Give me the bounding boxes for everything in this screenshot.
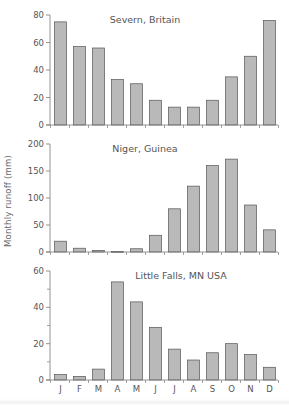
y-tick-label: 40 <box>33 65 44 75</box>
bar-J <box>55 22 67 125</box>
bar-O <box>226 344 238 380</box>
bar-M <box>131 249 143 252</box>
y-tick-label: 100 <box>28 193 44 203</box>
y-tick-label: 80 <box>33 10 44 20</box>
y-tick-label: 200 <box>28 139 44 149</box>
y-tick-label: 20 <box>33 93 44 103</box>
bar-A <box>188 186 200 252</box>
y-tick-label: 60 <box>33 38 44 48</box>
chart-panel-1: Severn, Britain020406080 <box>33 10 278 130</box>
bar-M <box>93 369 105 380</box>
month-label: A <box>115 384 121 394</box>
y-tick-label: 0 <box>39 247 44 257</box>
bar-N <box>245 355 257 380</box>
bar-J <box>55 241 67 252</box>
bar-A <box>188 107 200 125</box>
bar-S <box>207 100 219 125</box>
bar-J <box>150 327 162 380</box>
bar-J <box>55 375 67 380</box>
y-tick-label: 150 <box>28 166 44 176</box>
y-tick-label: 60 <box>33 266 44 276</box>
bar-D <box>264 367 276 380</box>
bar-D <box>264 21 276 126</box>
month-label: F <box>77 384 82 394</box>
month-label: S <box>210 384 215 394</box>
y-tick-label: 20 <box>33 339 44 349</box>
month-label: M <box>133 384 140 394</box>
y-tick-label: 40 <box>33 302 44 312</box>
runoff-bar-charts: Severn, Britain020406080Niger, Guinea050… <box>0 0 289 405</box>
chart-panel-3: Little Falls, MN USA0204060JFMAMJJASOND <box>33 266 278 394</box>
bar-A <box>188 360 200 380</box>
chart-title: Niger, Guinea <box>112 143 177 154</box>
month-label: A <box>191 384 197 394</box>
chart-title: Severn, Britain <box>110 14 180 25</box>
bar-M <box>93 48 105 125</box>
bar-A <box>112 282 124 380</box>
bar-J <box>169 107 181 125</box>
bar-S <box>207 166 219 252</box>
month-label: J <box>153 384 157 394</box>
bar-O <box>226 77 238 125</box>
y-tick-label: 0 <box>39 375 44 385</box>
month-label: N <box>247 384 253 394</box>
y-tick-label: 0 <box>39 120 44 130</box>
bar-N <box>245 205 257 252</box>
bar-M <box>131 302 143 380</box>
bar-A <box>112 80 124 125</box>
bar-M <box>131 84 143 125</box>
runoff-figure: Severn, Britain020406080Niger, Guinea050… <box>0 0 289 405</box>
month-label: O <box>228 384 235 394</box>
clipped-caption <box>0 399 289 405</box>
bar-F <box>74 376 86 380</box>
bar-D <box>264 230 276 252</box>
chart-title: Little Falls, MN USA <box>135 270 227 281</box>
month-label: J <box>172 384 176 394</box>
bar-F <box>74 248 86 252</box>
y-tick-label: 50 <box>33 220 44 230</box>
month-label: J <box>58 384 62 394</box>
bar-J <box>169 349 181 380</box>
month-label: D <box>266 384 273 394</box>
month-label: M <box>95 384 102 394</box>
y-axis-label: Monthly runoff (mm) <box>3 141 13 261</box>
bar-S <box>207 353 219 380</box>
chart-panel-2: Niger, Guinea050100150200 <box>28 139 279 257</box>
bar-O <box>226 159 238 252</box>
bar-N <box>245 56 257 125</box>
bar-F <box>74 47 86 125</box>
bar-J <box>169 209 181 252</box>
bar-J <box>150 235 162 252</box>
bar-J <box>150 100 162 125</box>
